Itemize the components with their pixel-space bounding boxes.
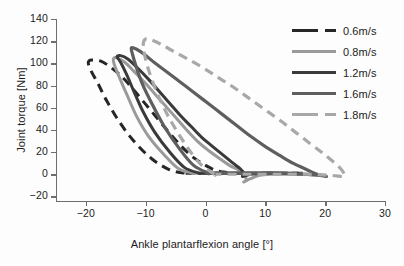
legend-label: 0.8m/s <box>343 46 377 58</box>
y-tick-label: 120 <box>30 34 48 46</box>
y-tick-label: 40 <box>36 123 48 135</box>
y-tick-label: 80 <box>36 79 48 91</box>
y-tick-label: 20 <box>36 145 48 157</box>
x-tick-label: 0 <box>186 207 226 219</box>
series-curve-12ms <box>117 55 298 176</box>
x-tick-label: −20 <box>66 207 106 219</box>
y-tick-label: −20 <box>30 189 48 201</box>
legend-line-icon <box>292 50 336 54</box>
legend-label: 1.2m/s <box>343 67 377 79</box>
legend-item[interactable]: 0.8m/s <box>292 41 402 62</box>
legend-item[interactable]: 1.8m/s <box>292 104 402 125</box>
legend-line-icon <box>292 71 336 75</box>
legend-label: 1.8m/s <box>343 109 377 121</box>
x-tick-label: 20 <box>305 207 345 219</box>
legend-label: 0.6m/s <box>343 25 377 37</box>
y-tick-label: 140 <box>30 12 48 24</box>
y-tick-label: 0 <box>42 167 48 179</box>
x-tick-label: 30 <box>365 207 404 219</box>
x-axis-label: Ankle plantarflexion angle [°] <box>0 238 404 250</box>
y-tick-label: 60 <box>36 101 48 113</box>
legend-item[interactable]: 0.6m/s <box>292 20 402 41</box>
x-tick-label: 10 <box>245 207 285 219</box>
x-tick-label: −10 <box>126 207 166 219</box>
legend-label: 1.6m/s <box>343 88 377 100</box>
chart-figure: Joint torque [Nm] −20020406080100120140 … <box>0 0 404 266</box>
legend: 0.6m/s0.8m/s1.2m/s1.6m/s1.8m/s <box>292 20 402 125</box>
legend-line-icon <box>292 29 336 33</box>
legend-line-icon <box>292 113 336 117</box>
y-axis-label: Joint torque [Nm] <box>15 35 27 185</box>
x-tick <box>385 201 386 206</box>
y-tick-label: 100 <box>30 56 48 68</box>
legend-item[interactable]: 1.6m/s <box>292 83 402 104</box>
legend-item[interactable]: 1.2m/s <box>292 62 402 83</box>
legend-line-icon <box>292 92 336 96</box>
